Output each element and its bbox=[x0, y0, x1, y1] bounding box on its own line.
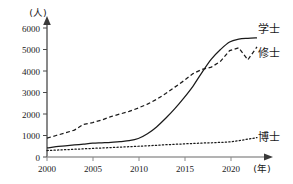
y-tick-label-4000: 4000 bbox=[22, 67, 41, 77]
y-tick-label-1000: 1000 bbox=[22, 131, 41, 141]
x-tick-label-2015: 2015 bbox=[176, 164, 195, 174]
line-chart: 0 1000 2000 3000 4000 5000 6000 2000 200… bbox=[0, 0, 293, 184]
series-line-gakushi bbox=[47, 38, 257, 148]
y-axis-unit-label: (人) bbox=[29, 7, 46, 18]
chart-canvas: 0 1000 2000 3000 4000 5000 6000 2000 200… bbox=[0, 0, 293, 184]
x-axis-unit-label: (年) bbox=[253, 163, 270, 174]
series-label-shushi: 修士 bbox=[258, 46, 280, 60]
y-tick-label-0: 0 bbox=[36, 153, 41, 163]
series-paths bbox=[47, 38, 257, 151]
y-tick-label-3000: 3000 bbox=[22, 88, 41, 98]
y-tick-label-6000: 6000 bbox=[22, 24, 41, 34]
x-tick-label-2000: 2000 bbox=[38, 164, 57, 174]
x-axis bbox=[47, 153, 273, 160]
x-tick-label-2005: 2005 bbox=[84, 164, 103, 174]
y-tick-label-5000: 5000 bbox=[22, 45, 41, 55]
series-line-shushi bbox=[47, 47, 257, 138]
x-tick-label-2020: 2020 bbox=[222, 164, 241, 174]
x-tick-label-2010: 2010 bbox=[130, 164, 149, 174]
series-label-gakushi: 学士 bbox=[258, 22, 280, 36]
series-label-hakushi: 博士 bbox=[258, 131, 280, 144]
y-tick-label-2000: 2000 bbox=[22, 110, 41, 120]
